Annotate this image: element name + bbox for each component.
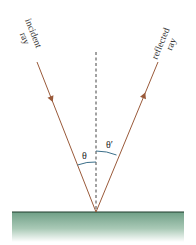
mirror-surface [12,212,184,242]
reflection-diagram: θ θ′ incident ray reflected ray [0,0,196,245]
angle-incidence-label: θ [82,150,87,161]
incident-ray [37,62,96,212]
reflected-ray [96,62,158,212]
angle-reflection-label: θ′ [106,139,113,150]
incident-arrow-icon [48,95,56,103]
angle-incidence-arc [78,162,97,165]
angle-reflection-arc [96,151,117,155]
reflected-arrow-icon [140,91,148,99]
